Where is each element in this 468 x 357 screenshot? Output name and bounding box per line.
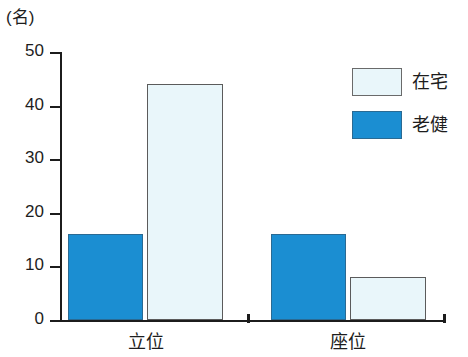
legend-label-roken: 老健 — [412, 114, 448, 136]
legend-swatch-roken — [352, 111, 402, 139]
bar-zaitaku-zai — [350, 277, 426, 320]
x-axis-category-label-2: 座位 — [308, 331, 388, 353]
x-axis-category-label-1: 立位 — [106, 331, 186, 353]
bar-chart: (名) 50 40 30 20 10 0 — [0, 0, 468, 357]
legend-swatch-zaitaku — [352, 68, 402, 96]
bar-zaitaku-ritsui — [147, 84, 223, 320]
legend: 在宅 老健 — [352, 66, 464, 152]
bar-roken-ritsui — [68, 234, 143, 320]
y-axis-tick-label-20: 20 — [25, 202, 44, 222]
y-axis-tick-label-0: 0 — [35, 309, 44, 329]
y-axis-tick-label-40: 40 — [25, 95, 44, 115]
legend-item-zaitaku: 在宅 — [352, 66, 464, 97]
legend-item-roken: 老健 — [352, 109, 464, 140]
bar-roken-zai — [271, 234, 346, 320]
legend-label-zaitaku: 在宅 — [412, 71, 448, 93]
y-axis-tick-label-50: 50 — [25, 41, 44, 61]
y-axis-tick-label-30: 30 — [25, 148, 44, 168]
y-axis-unit-label: (名) — [6, 8, 34, 28]
y-axis-tick-label-10: 10 — [25, 255, 44, 275]
